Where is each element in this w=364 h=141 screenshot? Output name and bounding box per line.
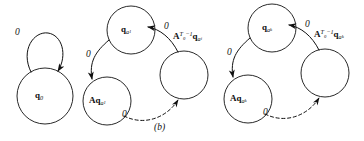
state-label-q-a1: qa1 <box>121 25 132 35</box>
component-cycle-ak <box>224 4 349 123</box>
edge-label-a1-bottom: 0 <box>122 110 127 120</box>
edge-label-q0-loop: 0 <box>15 28 20 38</box>
state-label-q0: q0 <box>35 91 43 101</box>
edge-label-a1-right: 0 <box>164 22 169 32</box>
component-cycle-a1 <box>83 6 208 125</box>
state-node-q0[interactable] <box>17 68 73 124</box>
state-node-ATq-a1[interactable] <box>160 51 208 99</box>
transition-q0-self-loop[interactable] <box>27 33 63 72</box>
state-node-ATq-ak[interactable] <box>301 49 349 97</box>
state-label-ATq-ak: AT0−1qak <box>314 29 344 40</box>
transition-a1-top-to-left[interactable] <box>91 40 109 79</box>
edge-label-ak-left: 0 <box>227 48 232 58</box>
figure-caption: (b) <box>154 123 165 133</box>
edge-label-ak-bottom: 0 <box>263 108 268 118</box>
figure-container: q0 qa1 Aqa1 AT0−1qai qak Aqak AT0−1qak 0… <box>0 0 364 141</box>
state-label-q-ak: qak <box>262 23 272 33</box>
transition-a1-left-to-right[interactable] <box>124 100 178 120</box>
component-initial <box>17 33 73 124</box>
state-label-q0-subscript: 0 <box>40 94 43 101</box>
state-label-ATq-a1: AT0−1qai <box>173 31 202 42</box>
state-label-Aq-ak: Aqak <box>230 94 247 104</box>
edge-label-ak-right: 0 <box>305 20 310 30</box>
transition-ak-top-to-left[interactable] <box>232 38 250 77</box>
state-label-Aq-a1: Aqa1 <box>89 96 106 106</box>
edge-label-a1-left: 0 <box>86 50 91 60</box>
transition-ak-left-to-right[interactable] <box>265 98 319 118</box>
